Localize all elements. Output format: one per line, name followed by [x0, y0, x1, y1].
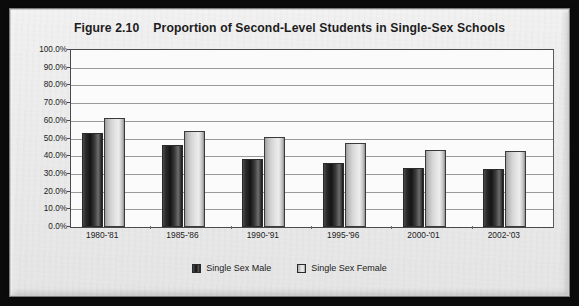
y-axis-tick-label: 30.0%: [13, 168, 67, 177]
y-axis-tick-label: 50.0%: [13, 133, 67, 142]
y-axis-tick-label: 40.0%: [13, 151, 67, 160]
legend-label-male: Single Sex Male: [206, 263, 271, 273]
gridline: [71, 174, 553, 175]
gridline: [71, 85, 553, 86]
gridline: [71, 139, 553, 140]
bar-male: [162, 145, 183, 227]
x-axis-tick-mark: [231, 226, 232, 229]
legend-item-female: Single Sex Female: [297, 263, 387, 273]
bar-group: [82, 50, 125, 227]
figure-panel: Figure 2.10Proportion of Second-Level St…: [9, 8, 570, 297]
bar-female: [425, 150, 446, 227]
y-axis-tick-label: 10.0%: [13, 204, 67, 213]
scanned-page-background: Figure 2.10Proportion of Second-Level St…: [0, 0, 579, 306]
x-axis-tick-mark: [150, 226, 151, 229]
bar-group: [403, 50, 446, 227]
y-axis-tick-label: 90.0%: [13, 62, 67, 71]
gridline: [71, 68, 553, 69]
y-axis-tick-label: 100.0%: [13, 45, 67, 54]
x-axis-tick-label: 1985-'86: [166, 230, 198, 240]
bar-group: [162, 50, 205, 227]
legend-swatch-female-icon: [297, 264, 306, 273]
y-axis-tick-label: 20.0%: [13, 186, 67, 195]
bar-group: [483, 50, 526, 227]
bar-male: [483, 169, 504, 227]
x-axis-tick-mark: [472, 226, 473, 229]
gridline: [71, 156, 553, 157]
gridline: [71, 121, 553, 122]
x-axis-tick-label: 1980-'81: [86, 230, 118, 240]
y-axis-tick-label: 70.0%: [13, 98, 67, 107]
bar-group: [242, 50, 285, 227]
bar-group: [323, 50, 366, 227]
bar-male: [403, 168, 424, 227]
legend-item-male: Single Sex Male: [192, 263, 271, 273]
chart-legend: Single Sex Male Single Sex Female: [10, 263, 569, 273]
gridline: [71, 209, 553, 210]
x-axis: 1980-'811985-'861990-'911995-'962000-'01…: [70, 230, 552, 244]
figure-title-text: Proportion of Second-Level Students in S…: [153, 21, 505, 35]
x-axis-tick-mark: [311, 226, 312, 229]
y-axis-tick-label: 0.0%: [13, 222, 67, 231]
bar-female: [345, 143, 366, 227]
plot-area: [70, 49, 554, 228]
legend-label-female: Single Sex Female: [311, 263, 387, 273]
bar-male: [242, 159, 263, 227]
x-axis-tick-label: 1990-'91: [247, 230, 279, 240]
bar-female: [505, 151, 526, 227]
x-axis-tick-mark: [391, 226, 392, 229]
page-title: Figure 2.10Proportion of Second-Level St…: [10, 21, 569, 35]
bar-male: [323, 163, 344, 227]
bar-female: [184, 131, 205, 227]
y-axis-tick-label: 80.0%: [13, 80, 67, 89]
x-axis-tick-label: 1995-'96: [327, 230, 359, 240]
x-axis-tick-label: 2002-'03: [488, 230, 520, 240]
legend-swatch-male-icon: [192, 264, 201, 273]
bar-female: [264, 137, 285, 227]
y-axis-tick-label: 60.0%: [13, 115, 67, 124]
y-axis: 100.0%90.0%80.0%70.0%60.0%50.0%40.0%30.0…: [10, 49, 67, 226]
bar-male: [82, 133, 103, 227]
figure-number: Figure 2.10: [74, 21, 139, 35]
gridline: [71, 192, 553, 193]
x-axis-tick-label: 2000-'01: [407, 230, 439, 240]
gridline: [71, 103, 553, 104]
plot-inner: [71, 50, 553, 227]
bar-female: [104, 118, 125, 227]
